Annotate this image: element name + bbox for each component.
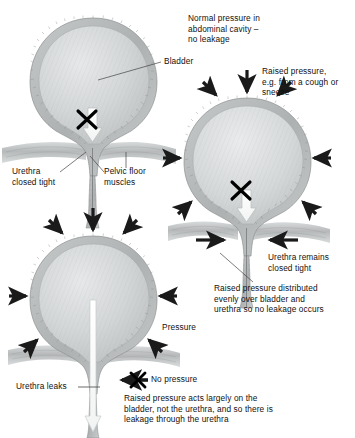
caption-normal-pressure: Normal pressure in abdominal cavity – no… — [188, 13, 338, 45]
diagram-canvas: Normal pressure in abdominal cavity – no… — [0, 0, 355, 438]
urine-flow-arrow-leaking — [85, 300, 101, 432]
pelvic-floor-muscles-bottom — [8, 346, 180, 368]
label-urethra-closed-tight: Urethra closed tight — [12, 166, 74, 187]
caption-raised-pressure: Raised pressure, e.g. from a cough or sn… — [262, 66, 355, 98]
label-bladder: Bladder — [164, 56, 193, 67]
explanation-leakage: Raised pressure acts largely on the blad… — [124, 393, 349, 425]
block-x-mark-middle — [232, 182, 250, 199]
leader-lines-top — [60, 62, 161, 172]
label-pressure: Pressure — [162, 322, 196, 333]
urine-flow-arrow-blocked-top — [83, 108, 102, 142]
urine-flow-arrow-blocked-middle — [237, 190, 256, 222]
pelvic-floor-muscles-top — [2, 142, 176, 164]
no-pressure-arrow — [122, 373, 148, 387]
bladder-top-left — [2, 16, 176, 229]
explanation-even-pressure: Raised pressure distributed evenly over … — [214, 283, 355, 315]
pressure-arrows-bottom — [9, 208, 177, 352]
pelvic-floor-muscles-middle — [168, 222, 330, 244]
label-no-pressure: No pressure — [151, 374, 197, 385]
block-x-mark-top — [78, 111, 96, 128]
leader-lines-middle — [220, 253, 253, 282]
label-urethra-remains-closed: Urethra remains closed tight — [268, 252, 355, 273]
label-pelvic-floor-muscles: Pelvic floor muscles — [104, 166, 170, 187]
label-urethra-leaks: Urethra leaks — [16, 381, 67, 392]
